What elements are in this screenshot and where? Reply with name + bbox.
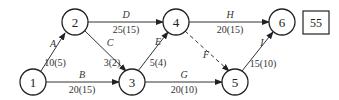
svg-text:1: 1	[30, 75, 37, 90]
activity-label-A: A	[49, 38, 57, 49]
activity-label-D: D	[121, 9, 130, 20]
svg-text:4: 4	[173, 15, 180, 30]
duration-label-G: 20(10)	[171, 84, 198, 96]
activity-label-B: B	[79, 69, 85, 80]
activity-label-C: C	[107, 37, 114, 48]
node-1: 1	[20, 69, 46, 95]
activity-label-H: H	[225, 9, 234, 20]
node-2: 2	[62, 9, 88, 35]
duration-label-C: 3(2)	[104, 57, 121, 69]
node-4: 4	[163, 9, 189, 35]
total-duration-box: 55	[303, 11, 329, 34]
duration-label-E: 5(4)	[150, 57, 167, 69]
activity-label-I: I	[259, 37, 264, 48]
node-5: 5	[222, 69, 248, 95]
activity-label-E: E	[154, 36, 161, 47]
svg-text:2: 2	[72, 15, 79, 30]
svg-text:3: 3	[129, 75, 136, 90]
duration-label-I: 15(10)	[250, 58, 277, 70]
duration-label-B: 20(15)	[69, 84, 96, 96]
duration-label-D: 25(15)	[113, 24, 140, 36]
node-6: 6	[269, 9, 295, 35]
activity-label-G: G	[180, 69, 187, 80]
svg-text:5: 5	[232, 75, 239, 90]
node-3: 3	[119, 69, 145, 95]
activity-label-F: F	[202, 49, 210, 60]
svg-text:6: 6	[279, 15, 286, 30]
duration-label-H: 20(15)	[217, 24, 244, 36]
network-diagram: A 10(5) B 20(15) C 3(2) D 25(15) E 5(4) …	[0, 0, 339, 100]
total-duration-value: 55	[310, 16, 322, 30]
duration-label-A: 10(5)	[44, 57, 66, 69]
